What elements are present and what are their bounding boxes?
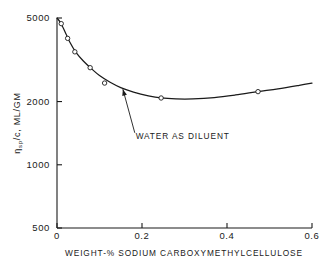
x-tick-label-0: 0 <box>54 230 60 241</box>
y-tick-label-1000: 1000 <box>26 159 50 170</box>
data-point-6 <box>256 89 260 93</box>
data-point-0 <box>59 21 63 25</box>
data-point-3 <box>88 65 92 69</box>
data-point-5 <box>159 96 163 100</box>
x-axis-title: WEIGHT-% SODIUM CARBOXYMETHYLCELLULOSE <box>65 248 303 258</box>
data-point-4 <box>102 81 106 85</box>
y-tick-label-5000: 5000 <box>26 12 50 23</box>
x-tick-label-0.2: 0.2 <box>134 230 149 241</box>
y-tick-label-500: 500 <box>32 222 50 233</box>
chart-figure: 500100020005000 00.20.40.6 WATER AS DILU… <box>0 0 329 267</box>
x-tick-label-0.4: 0.4 <box>219 230 234 241</box>
y-axis-title-rest: /c, ML/GM <box>12 92 22 140</box>
scatter-line-chart: 500100020005000 00.20.40.6 WATER AS DILU… <box>0 0 329 267</box>
y-tick-label-2000: 2000 <box>26 96 50 107</box>
y-axis-title-subscript: sp <box>17 140 23 148</box>
annotation-label-water-as-diluent: WATER AS DILUENT <box>136 131 230 141</box>
x-tick-label-0.6: 0.6 <box>304 230 319 241</box>
data-point-2 <box>73 50 77 54</box>
data-point-1 <box>65 36 69 40</box>
